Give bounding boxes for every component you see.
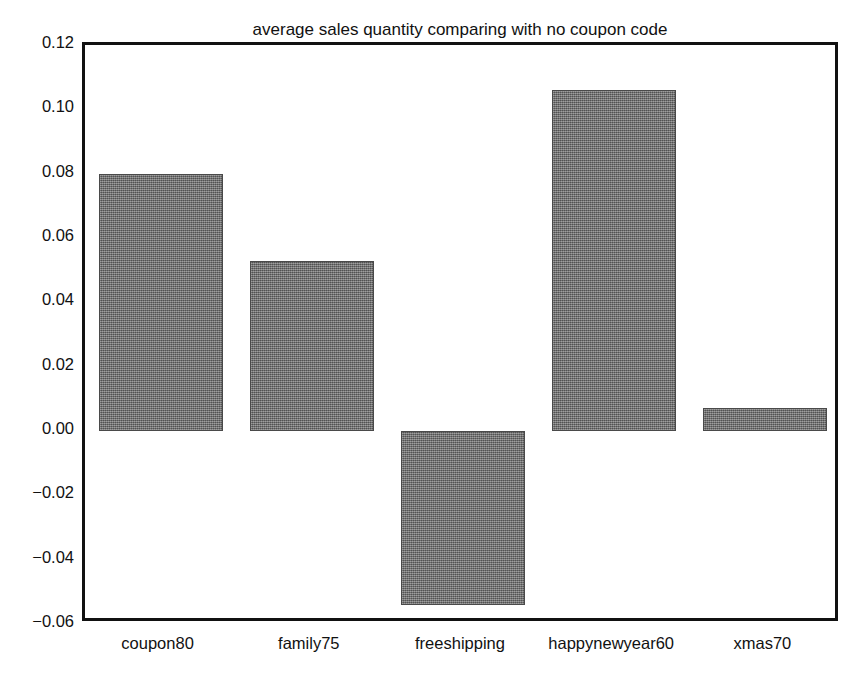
y-axis-tick-label: 0.10 xyxy=(6,98,74,114)
chart-figure: average sales quantity comparing with no… xyxy=(0,0,867,693)
y-axis-tick-label: 0.02 xyxy=(6,356,74,372)
y-axis-tick-label: 0.12 xyxy=(6,34,74,50)
y-axis-tick-label: −0.04 xyxy=(6,549,74,565)
bar-xmas70 xyxy=(703,408,827,431)
y-axis-tick-label: −0.06 xyxy=(6,613,74,629)
x-axis-tick-label-family75: family75 xyxy=(233,634,384,652)
chart-title: average sales quantity comparing with no… xyxy=(82,20,838,40)
x-axis-tick-label-xmas70: xmas70 xyxy=(687,634,838,652)
y-axis-tick-label: 0.04 xyxy=(6,291,74,307)
y-axis-tick-label: 0.06 xyxy=(6,227,74,243)
plot-area xyxy=(85,45,835,618)
y-axis-tick-label: 0.08 xyxy=(6,163,74,179)
bar-family75 xyxy=(250,261,374,431)
x-axis-tick-label-freeshipping: freeshipping xyxy=(384,634,535,652)
x-axis-tick-label-happynewyear60: happynewyear60 xyxy=(536,634,687,652)
plot-frame xyxy=(82,42,838,621)
y-axis-tick-label: 0.00 xyxy=(6,420,74,436)
bar-coupon80 xyxy=(99,174,223,431)
x-axis-tick-label-coupon80: coupon80 xyxy=(82,634,233,652)
bar-freeshipping xyxy=(401,431,525,605)
y-axis-tick-label: −0.02 xyxy=(6,484,74,500)
bar-happynewyear60 xyxy=(552,90,676,431)
